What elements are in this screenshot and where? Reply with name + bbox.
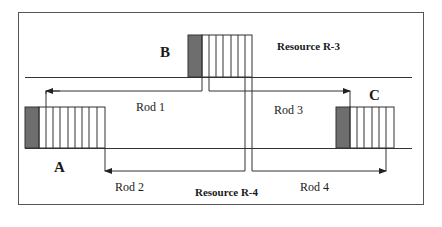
- resource-r4-label: Resource R-4: [195, 186, 259, 198]
- rod-3-label: Rod 3: [274, 103, 303, 117]
- resource-r3-label: Resource R-3: [277, 40, 341, 52]
- rod-3-arrow: [209, 77, 350, 91]
- block-a: [25, 107, 105, 148]
- rod-1-arrow: [46, 77, 202, 94]
- block-c: [336, 107, 394, 148]
- block-b-label: B: [160, 44, 170, 60]
- rod-1-label: Rod 1: [136, 100, 165, 114]
- block-a-label: A: [54, 159, 65, 175]
- rod-2-label: Rod 2: [115, 180, 144, 194]
- rod-resource-diagram: B Resource R-3 Rod 1 Rod 3 C A Rod 2 Res…: [0, 0, 442, 227]
- rod-4-label: Rod 4: [300, 180, 329, 194]
- block-b: [188, 35, 252, 77]
- block-c-label: C: [369, 87, 380, 103]
- diagram-frame: [19, 13, 424, 205]
